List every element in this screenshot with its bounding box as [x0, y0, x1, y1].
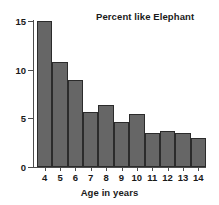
x-tick-label: 9	[119, 172, 124, 183]
x-tick-mark	[91, 168, 92, 171]
y-tick-label: 15	[15, 16, 26, 27]
x-tick-mark	[122, 168, 123, 171]
x-tick-label: 14	[193, 172, 204, 183]
x-axis-title: Age in years	[0, 187, 219, 198]
x-tick-label: 13	[178, 172, 189, 183]
x-tick-mark	[137, 168, 138, 171]
y-tick-mark	[28, 167, 33, 168]
y-tick-label: 5	[21, 113, 26, 124]
bar	[175, 133, 190, 167]
x-tick-mark	[183, 168, 184, 171]
bar	[145, 133, 160, 167]
bar	[37, 21, 52, 167]
x-tick-label: 6	[73, 172, 78, 183]
x-tick-mark	[168, 168, 169, 171]
chart-title: Percent like Elephant	[96, 11, 194, 22]
x-tick-label: 12	[162, 172, 173, 183]
x-tick-mark	[75, 168, 76, 171]
y-tick-label: 0	[21, 162, 26, 173]
x-tick-label: 4	[42, 172, 47, 183]
bar	[98, 105, 113, 167]
x-tick-label: 5	[57, 172, 62, 183]
bar	[129, 114, 144, 167]
bar	[52, 62, 67, 167]
x-tick-label: 11	[147, 172, 157, 183]
y-tick-mark	[28, 21, 33, 22]
x-tick-label: 10	[132, 172, 143, 183]
x-tick-mark	[45, 168, 46, 171]
y-tick-label: 10	[15, 64, 26, 75]
x-tick-mark	[152, 168, 153, 171]
y-tick-mark	[28, 118, 33, 119]
y-axis-line	[33, 20, 34, 168]
x-tick-mark	[106, 168, 107, 171]
bar-chart: Percent like Elephant 051015 45678910111…	[0, 0, 219, 205]
bar	[68, 80, 83, 167]
bar	[191, 138, 206, 167]
x-axis-line	[33, 167, 206, 168]
x-tick-label: 7	[88, 172, 93, 183]
y-tick-mark	[28, 70, 33, 71]
bar	[114, 122, 129, 167]
x-tick-label: 8	[103, 172, 108, 183]
x-tick-mark	[60, 168, 61, 171]
x-tick-mark	[198, 168, 199, 171]
bar	[160, 131, 175, 167]
bar	[83, 112, 98, 167]
